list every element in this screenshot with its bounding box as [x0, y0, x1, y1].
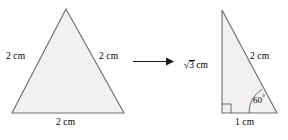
label-equilateral-base: 2 cm	[56, 118, 75, 128]
transformation-arrow-group	[133, 58, 174, 66]
unit-cm: cm	[196, 60, 208, 70]
degree-symbol: °	[262, 93, 265, 101]
right-triangle-group	[222, 10, 277, 113]
arrow-head-icon	[166, 58, 174, 66]
label-angle-60-degrees: 60°	[253, 96, 265, 105]
label-right-triangle-base: 1 cm	[235, 118, 254, 128]
right-triangle-shape	[222, 10, 277, 113]
label-equilateral-left-side: 2 cm	[6, 52, 25, 62]
label-right-triangle-hypotenuse: 2 cm	[250, 52, 269, 62]
geometry-diagram: 2 cm 2 cm 2 cm √3cm 2 cm 1 cm 60°	[0, 0, 288, 140]
radical-group: √3	[184, 60, 195, 71]
label-equilateral-right-side: 2 cm	[99, 52, 118, 62]
label-right-triangle-vertical-side: √3cm	[184, 60, 208, 71]
radicand-value: 3	[189, 60, 195, 71]
angle-value: 60	[253, 95, 262, 105]
